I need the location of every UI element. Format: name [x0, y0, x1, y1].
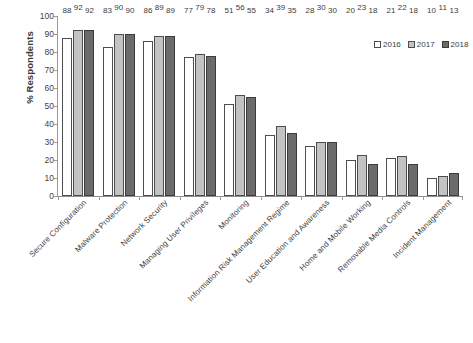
- bar-column[interactable]: 77: [184, 16, 194, 196]
- y-axis-tick-label: 30: [28, 137, 54, 147]
- bar[interactable]: [143, 41, 153, 196]
- bar-group: 515655: [220, 16, 261, 196]
- bar[interactable]: [265, 135, 275, 196]
- bar-value-label: 92: [74, 4, 83, 12]
- bar[interactable]: [408, 164, 418, 196]
- bar-value-label: 89: [155, 4, 164, 12]
- legend-label: 2016: [383, 40, 401, 49]
- bar-column[interactable]: 30: [327, 16, 337, 196]
- bar[interactable]: [165, 36, 175, 196]
- bar-column[interactable]: 89: [165, 16, 175, 196]
- bar[interactable]: [103, 47, 113, 196]
- y-axis-tick-mark: [54, 160, 57, 161]
- bar-column[interactable]: 56: [235, 16, 245, 196]
- legend-label: 2017: [417, 40, 435, 49]
- y-axis-tick-label: 40: [28, 119, 54, 129]
- bar[interactable]: [114, 34, 124, 196]
- legend-item[interactable]: 2017: [408, 40, 435, 49]
- bar-column[interactable]: 28: [305, 16, 315, 196]
- bar-column[interactable]: 86: [143, 16, 153, 196]
- y-axis-tick-labels: 0102030405060708090100: [28, 10, 54, 196]
- y-axis-tick-label: 80: [28, 47, 54, 57]
- bar-column[interactable]: 79: [195, 16, 205, 196]
- bar-column[interactable]: 90: [125, 16, 135, 196]
- bar[interactable]: [125, 34, 135, 196]
- bar-value-label: 55: [247, 7, 256, 15]
- bar-value-label: 30: [317, 4, 326, 12]
- bar[interactable]: [206, 56, 216, 196]
- bar[interactable]: [346, 160, 356, 196]
- bar[interactable]: [224, 104, 234, 196]
- y-axis-tick-mark: [54, 16, 57, 17]
- bar[interactable]: [305, 146, 315, 196]
- bar-column[interactable]: 92: [84, 16, 94, 196]
- chart-legend: 201620172018: [374, 40, 468, 49]
- bar-column[interactable]: 34: [265, 16, 275, 196]
- bar-value-label: 10: [427, 7, 436, 15]
- bar[interactable]: [397, 156, 407, 196]
- x-axis-tick-labels: Secure ConfigurationMalware ProtectionNe…: [57, 198, 463, 298]
- bar[interactable]: [357, 155, 367, 196]
- y-axis-tick-mark: [54, 124, 57, 125]
- bar-value-label: 18: [368, 7, 377, 15]
- bar[interactable]: [316, 142, 326, 196]
- bar[interactable]: [235, 95, 245, 196]
- y-axis-tick-mark: [54, 52, 57, 53]
- x-axis-tick-label: Removable Media Controls: [336, 198, 412, 274]
- bar[interactable]: [386, 158, 396, 196]
- x-axis-tick-label: Managing User Privileges: [138, 198, 211, 271]
- bar-column[interactable]: 92: [73, 16, 83, 196]
- bar[interactable]: [73, 30, 83, 196]
- bar-column[interactable]: 20: [346, 16, 356, 196]
- bar[interactable]: [438, 176, 448, 196]
- bar-column[interactable]: 30: [316, 16, 326, 196]
- bar-column[interactable]: 90: [114, 16, 124, 196]
- bar[interactable]: [195, 54, 205, 196]
- legend-item[interactable]: 2016: [374, 40, 401, 49]
- y-axis-tick-mark: [54, 70, 57, 71]
- bar-value-label: 88: [63, 7, 72, 15]
- bar-value-label: 23: [357, 4, 366, 12]
- y-axis-tick-mark: [54, 142, 57, 143]
- bar[interactable]: [368, 164, 378, 196]
- bar-value-label: 30: [328, 7, 337, 15]
- bar-column[interactable]: 83: [103, 16, 113, 196]
- bar[interactable]: [184, 57, 194, 196]
- legend-swatch: [374, 41, 381, 48]
- bar-column[interactable]: 51: [224, 16, 234, 196]
- y-axis-tick-label: 100: [28, 11, 54, 21]
- bar[interactable]: [276, 126, 286, 196]
- bar-column[interactable]: 39: [276, 16, 286, 196]
- bar[interactable]: [62, 38, 72, 196]
- bar-column[interactable]: 23: [357, 16, 367, 196]
- bar[interactable]: [246, 97, 256, 196]
- bar[interactable]: [84, 30, 94, 196]
- bar-column[interactable]: 55: [246, 16, 256, 196]
- bar-group: 889292: [58, 16, 99, 196]
- bar-group: 839090: [99, 16, 140, 196]
- bar-column[interactable]: 89: [154, 16, 164, 196]
- bar-column[interactable]: 78: [206, 16, 216, 196]
- bar-value-label: 28: [306, 7, 315, 15]
- bar[interactable]: [287, 133, 297, 196]
- bar-group: 343935: [261, 16, 302, 196]
- bar-column[interactable]: 88: [62, 16, 72, 196]
- bar[interactable]: [427, 178, 437, 196]
- bar[interactable]: [154, 36, 164, 196]
- y-axis-tick-label: 0: [28, 191, 54, 201]
- bar[interactable]: [327, 142, 337, 196]
- bar-value-label: 90: [125, 7, 134, 15]
- bar-column[interactable]: 35: [287, 16, 297, 196]
- x-axis-tick-label: User Education and Awareness: [244, 198, 331, 285]
- x-axis-tick-label: Home and Mobile Working: [298, 198, 373, 273]
- bar-group: 777978: [180, 16, 221, 196]
- legend-item[interactable]: 2018: [442, 40, 469, 49]
- y-axis-tick-mark: [54, 34, 57, 35]
- bar-value-label: 35: [287, 7, 296, 15]
- bar-chart: % Respondents 0102030405060708090100 889…: [0, 0, 473, 343]
- x-axis-tick-label: Monitoring: [217, 198, 250, 231]
- y-axis-tick-label: 50: [28, 101, 54, 111]
- bar-value-label: 18: [409, 7, 418, 15]
- bar-value-label: 92: [85, 7, 94, 15]
- bar[interactable]: [449, 173, 459, 196]
